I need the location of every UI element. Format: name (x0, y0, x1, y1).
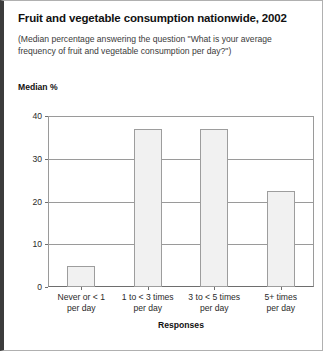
x-tick-mark (214, 287, 215, 290)
y-tick-label: 0 (37, 282, 42, 292)
chart-figure: Fruit and vegetable consumption nationwi… (0, 0, 323, 351)
y-tick-label: 10 (32, 239, 42, 249)
x-tick-label: 3 to < 5 timesper day (177, 292, 251, 313)
chart-subtitle: (Median percentage answering the questio… (18, 34, 310, 57)
y-tick-label: 40 (32, 111, 42, 121)
chart-title: Fruit and vegetable consumption nationwi… (18, 12, 314, 25)
x-tick-label-line: 3 to < 5 times (177, 292, 251, 303)
y-tick-mark (45, 287, 48, 288)
x-tick-mark (81, 287, 82, 290)
x-tick-label-line: Never or < 1 (44, 292, 118, 303)
bar-series (48, 116, 314, 287)
y-tick-label: 30 (32, 154, 42, 164)
x-tick-label: Never or < 1per day (44, 292, 118, 313)
x-tick-mark (281, 287, 282, 290)
x-tick-mark (148, 287, 149, 290)
bar (200, 129, 228, 287)
plot-area: 010203040 Never or < 1per day1 to < 3 ti… (48, 116, 314, 287)
x-tick-label-line: per day (177, 303, 251, 314)
x-tick-label-line: per day (44, 303, 118, 314)
x-tick-label: 1 to < 3 timesper day (111, 292, 185, 313)
y-tick-label: 20 (32, 197, 42, 207)
x-tick-label-line: per day (111, 303, 185, 314)
x-tick-label-line: per day (244, 303, 318, 314)
x-tick-label-line: 5+ times (244, 292, 318, 303)
bar (267, 191, 295, 287)
x-tick-label: 5+ timesper day (244, 292, 318, 313)
x-tick-label-line: 1 to < 3 times (111, 292, 185, 303)
bar (67, 266, 95, 287)
x-axis-label: Responses (48, 320, 314, 330)
bar (134, 129, 162, 287)
y-axis-label: Median % (18, 82, 58, 92)
